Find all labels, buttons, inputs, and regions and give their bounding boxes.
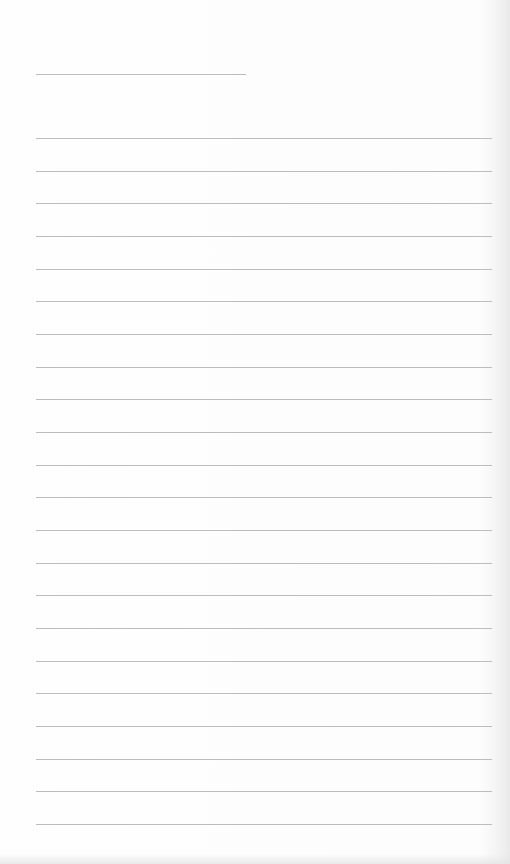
ruled-line [36, 236, 492, 237]
ruled-line [36, 628, 492, 629]
ruled-line [36, 301, 492, 302]
ruled-line [36, 726, 492, 727]
ruled-line [36, 171, 492, 172]
lined-page [0, 0, 510, 864]
page-bottom-edge [0, 854, 510, 864]
ruled-line [36, 563, 492, 564]
header-name-line [36, 74, 246, 75]
ruled-line [36, 759, 492, 760]
ruled-line [36, 661, 492, 662]
ruled-line [36, 269, 492, 270]
ruled-line [36, 497, 492, 498]
ruled-line [36, 367, 492, 368]
ruled-line [36, 824, 492, 825]
ruled-line [36, 203, 492, 204]
ruled-line [36, 465, 492, 466]
ruled-line [36, 791, 492, 792]
ruled-line [36, 334, 492, 335]
ruled-line [36, 530, 492, 531]
ruled-line [36, 595, 492, 596]
ruled-line [36, 693, 492, 694]
ruled-line [36, 138, 492, 139]
ruled-line [36, 399, 492, 400]
ruled-line [36, 432, 492, 433]
